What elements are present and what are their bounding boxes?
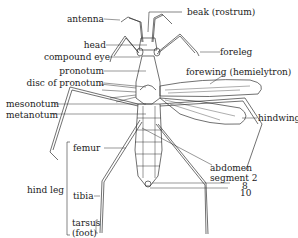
middle-legs [50, 87, 262, 170]
hind-legs [100, 120, 208, 234]
label-hind-leg: hind leg [27, 185, 64, 195]
label-abdomen: abdomen [210, 163, 252, 173]
label-forewing: forewing (hemielytron) [186, 67, 291, 77]
label-tarsus: tarsus [72, 218, 100, 228]
abdomen-segments [135, 106, 162, 178]
label-beak: beak (rostrum) [187, 7, 255, 17]
label-hindwing: hindwing [258, 113, 298, 123]
label-disc-of-pronotum: disc of pronotum [10, 78, 104, 88]
label-femur: femur [73, 143, 100, 153]
label-antenna: antenna [30, 14, 104, 24]
label-segment-2: segment 2 [210, 173, 258, 183]
label-foreleg: foreleg [220, 47, 252, 57]
label-metanotum: metanotum [6, 110, 58, 120]
label-pronotum: pronotum [30, 66, 104, 76]
label-head: head [50, 40, 106, 50]
label-tibia: tibia [73, 191, 94, 201]
label-segment-10: 10 [240, 188, 251, 198]
forewing [160, 80, 262, 97]
insect-diagram: antenna head compound eye pronotum disc … [0, 0, 298, 238]
hind-leg-bracket [67, 142, 70, 235]
abdomen-shape [135, 104, 162, 186]
label-mesonotum: mesonotum [6, 99, 59, 109]
pronotum-shape [136, 56, 160, 104]
label-compound-eye: compound eye [30, 52, 110, 62]
label-foot: (foot) [72, 228, 97, 238]
